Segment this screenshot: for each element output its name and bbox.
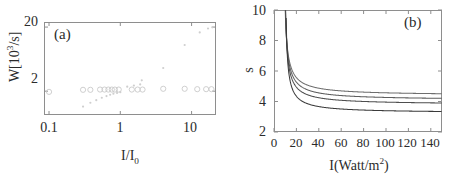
panel-a: (a) W[103/s] I/I0 20 2 0.1 1 10 [0, 0, 232, 183]
curve-curve-2 [285, 0, 442, 98]
data-point [184, 44, 186, 46]
data-point [101, 97, 103, 99]
data-point [211, 26, 213, 28]
figure-container: (a) W[103/s] I/I0 20 2 0.1 1 10 (b) s I(… [0, 0, 463, 183]
data-point [95, 99, 97, 101]
data-point [195, 87, 200, 92]
data-point [116, 92, 118, 94]
series-small-dots [82, 26, 213, 107]
data-point [199, 31, 201, 33]
data-point [89, 102, 91, 104]
data-point [46, 89, 51, 94]
data-point [133, 84, 135, 86]
series-open-circles [46, 86, 214, 94]
panel-b-data-layer [232, 0, 463, 183]
data-point [88, 87, 93, 92]
panel-b: (b) s I(Watt/m2) 10 8 6 4 2 0 20 40 60 8… [232, 0, 463, 183]
data-point [119, 91, 121, 93]
data-point [207, 27, 209, 29]
data-point [109, 94, 111, 96]
data-point [141, 79, 143, 81]
data-point [162, 67, 164, 69]
data-point [182, 86, 187, 91]
data-point [82, 105, 84, 107]
curve-curve-3 [285, 0, 441, 103]
data-point [80, 87, 85, 92]
data-point [209, 87, 214, 92]
curve-curve-4 [286, 18, 441, 111]
panel-a-data-layer [0, 0, 232, 183]
data-point [204, 87, 209, 92]
data-point [112, 93, 114, 95]
data-point [126, 86, 128, 88]
data-point [135, 87, 140, 92]
data-point [161, 86, 166, 91]
data-point [129, 87, 134, 92]
data-point [105, 95, 107, 97]
data-point [139, 83, 141, 85]
curve-curve-1 [285, 3, 442, 94]
data-point [140, 87, 145, 92]
